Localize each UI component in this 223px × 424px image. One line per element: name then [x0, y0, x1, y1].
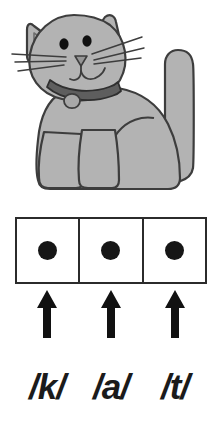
cat-collar-tag [64, 94, 80, 108]
sound-dot-icon [165, 241, 184, 260]
phoneme-labels-container: /k/ /a/ /t/ [15, 358, 207, 414]
sound-box-1[interactable] [17, 219, 78, 282]
sound-box-3[interactable] [142, 219, 205, 282]
arrow-up-icon [36, 290, 58, 338]
cat-eye-left [59, 38, 68, 50]
phoneme-label-3: /t/ [161, 369, 189, 404]
phoneme-label-2: /a/ [93, 369, 129, 404]
phoneme-cell-3: /t/ [143, 358, 207, 414]
arrow-up-icon [100, 290, 122, 338]
phoneme-cell-2: /a/ [79, 358, 143, 414]
worksheet-page: /k/ /a/ /t/ [0, 0, 223, 424]
phoneme-cell-1: /k/ [15, 358, 79, 414]
sound-box-2[interactable] [78, 219, 141, 282]
cat-eye-right [82, 35, 91, 47]
arrow-up-icon [164, 290, 186, 338]
cat-illustration [0, 0, 223, 212]
cat-front-leg-left [39, 132, 84, 188]
phoneme-label-1: /k/ [29, 369, 65, 404]
cat-front-leg-right [79, 130, 119, 188]
arrow-cell-2 [79, 290, 143, 340]
sound-dot-icon [38, 241, 57, 260]
sound-boxes-container [15, 217, 207, 284]
sound-dot-icon [101, 241, 120, 260]
arrow-cell-1 [15, 290, 79, 340]
arrows-container [15, 290, 207, 340]
arrow-cell-3 [143, 290, 207, 340]
